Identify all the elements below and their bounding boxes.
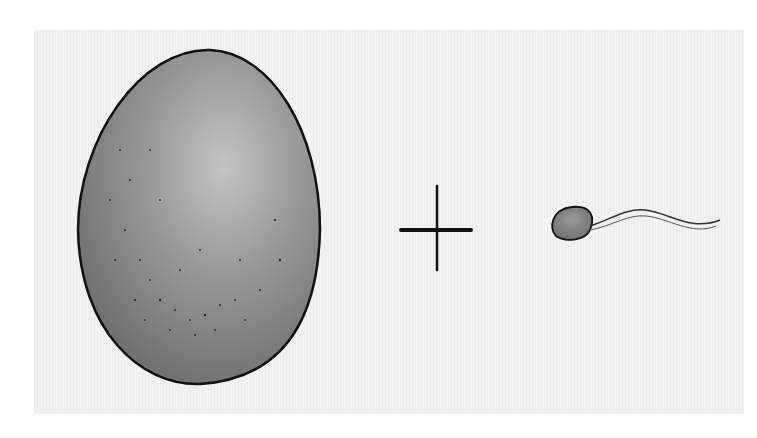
drawing [0,0,757,438]
sperm-cell [552,207,720,240]
plus-sign [401,186,471,270]
egg-cell [78,50,320,384]
